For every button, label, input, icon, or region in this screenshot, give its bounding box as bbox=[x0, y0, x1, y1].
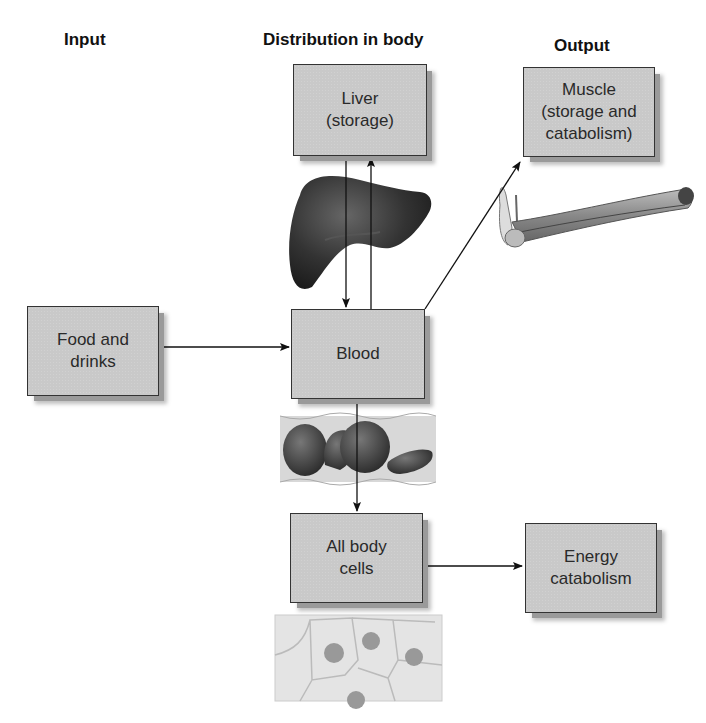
energy-label: Energy catabolism bbox=[550, 546, 631, 590]
liver-label: Liver (storage) bbox=[326, 88, 394, 132]
arm-muscle-illustration bbox=[499, 187, 694, 247]
blood-label: Blood bbox=[336, 343, 379, 365]
cells-box: All body cells bbox=[290, 513, 423, 603]
red-blood-cells-illustration bbox=[280, 413, 436, 485]
body-cells-illustration bbox=[275, 615, 442, 709]
energy-box: Energy catabolism bbox=[525, 523, 657, 613]
food-label: Food and drinks bbox=[57, 329, 129, 373]
muscle-box: Muscle (storage and catabolism) bbox=[523, 67, 655, 157]
blood-box: Blood bbox=[291, 309, 425, 399]
muscle-label: Muscle (storage and catabolism) bbox=[541, 79, 636, 145]
liver-box: Liver (storage) bbox=[293, 64, 427, 156]
food-box: Food and drinks bbox=[27, 306, 159, 396]
cells-label: All body cells bbox=[326, 536, 386, 580]
liver-illustration bbox=[289, 176, 431, 289]
